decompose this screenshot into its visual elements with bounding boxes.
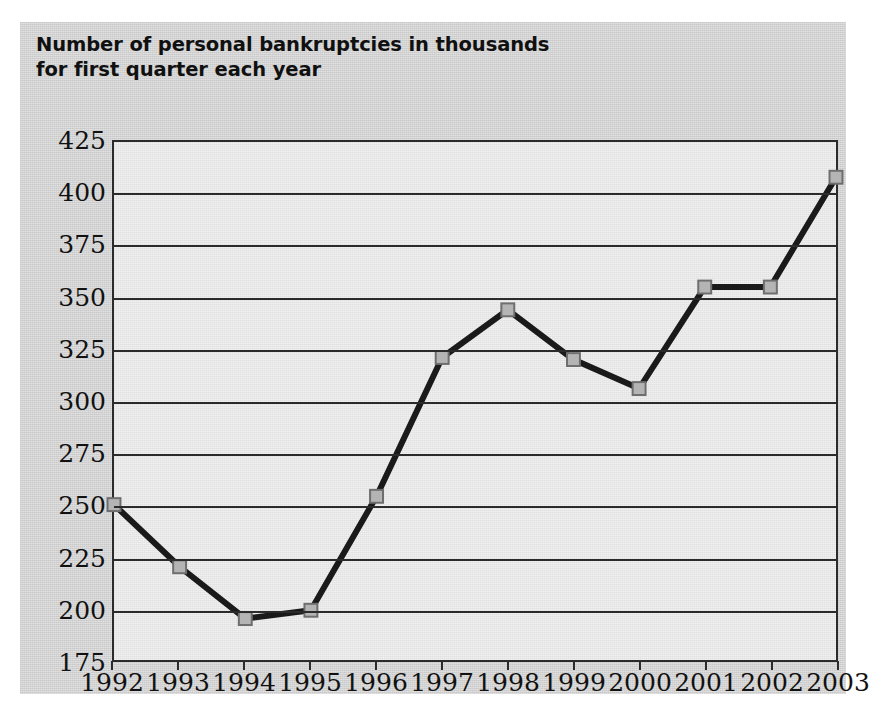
data-point-marker — [764, 281, 777, 294]
y-axis-tick-label: 400 — [36, 180, 106, 205]
y-axis-tick-label: 225 — [36, 545, 106, 570]
data-point-marker — [108, 498, 121, 511]
gridline — [114, 245, 836, 247]
x-axis-tick-label: 2003 — [798, 670, 873, 695]
y-axis-tick-label: 375 — [36, 232, 106, 257]
data-point-marker — [830, 171, 843, 184]
x-axis: 1992199319941995199619971998199920002001… — [112, 670, 838, 710]
gridline — [114, 402, 836, 404]
chart-title: Number of personal bankruptcies in thous… — [36, 32, 736, 82]
y-axis-tick-label: 250 — [36, 493, 106, 518]
gridline — [114, 298, 836, 300]
gridline — [114, 454, 836, 456]
y-axis-tick-label: 425 — [36, 128, 106, 153]
data-point-marker — [698, 281, 711, 294]
data-point-marker — [436, 351, 449, 364]
gridline — [114, 350, 836, 352]
gridline — [114, 611, 836, 613]
data-point-marker — [567, 353, 580, 366]
y-axis-tick-label: 275 — [36, 441, 106, 466]
y-axis-tick-label: 350 — [36, 284, 106, 309]
gridline — [114, 559, 836, 561]
y-axis-tick-label: 300 — [36, 389, 106, 414]
data-point-marker — [370, 490, 383, 503]
y-axis: 425400375350325300275250225200175 — [32, 140, 106, 662]
chart-card: Number of personal bankruptcies in thous… — [20, 22, 846, 694]
data-point-marker — [173, 560, 186, 573]
y-axis-tick-label: 200 — [36, 597, 106, 622]
gridline — [114, 506, 836, 508]
data-point-marker — [239, 612, 252, 625]
plot-area — [112, 140, 838, 662]
data-point-marker — [501, 303, 514, 316]
y-axis-tick-label: 325 — [36, 336, 106, 361]
data-point-marker — [633, 382, 646, 395]
series-line — [114, 177, 836, 618]
bankruptcies-line-series — [114, 142, 836, 660]
gridline — [114, 193, 836, 195]
